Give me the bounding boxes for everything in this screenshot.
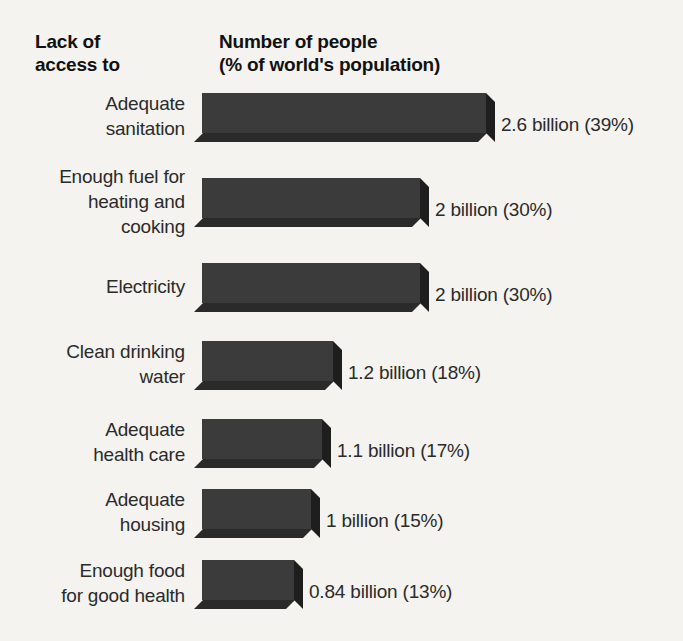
bar-front-face: [202, 93, 486, 133]
bar: [202, 341, 342, 390]
chart-row-header: Lack of access to: [35, 30, 120, 76]
category-label: Adequate health care: [93, 417, 185, 467]
category-label: Adequate housing: [105, 487, 185, 537]
bar-bottom-face: [194, 303, 421, 312]
chart-value-header: Number of people (% of world's populatio…: [219, 30, 440, 76]
bar-front-face: [202, 560, 294, 600]
bar: [202, 560, 303, 609]
bar-side-face: [420, 263, 429, 312]
bar-bottom-face: [194, 529, 312, 538]
bar-side-face: [311, 489, 320, 538]
category-label: Clean drinking water: [66, 339, 185, 389]
bar-bottom-face: [194, 600, 295, 609]
bar-front-face: [202, 489, 311, 529]
value-label: 1 billion (15%): [326, 511, 443, 530]
bar-bottom-face: [194, 133, 487, 142]
chart-container: Lack of access to Number of people (% of…: [0, 0, 683, 641]
value-label: 2 billion (30%): [435, 200, 552, 219]
bar-front-face: [202, 263, 420, 303]
bar-front-face: [202, 341, 333, 381]
category-label: Adequate sanitation: [105, 91, 185, 141]
bar-side-face: [486, 93, 495, 142]
bar-side-face: [333, 341, 342, 390]
bar-bottom-face: [194, 218, 421, 227]
category-label: Enough fuel for heating and cooking: [59, 164, 185, 239]
bar: [202, 263, 429, 312]
bar: [202, 178, 429, 227]
value-label: 0.84 billion (13%): [309, 582, 452, 601]
value-label: 1.2 billion (18%): [348, 363, 481, 382]
value-label: 2 billion (30%): [435, 285, 552, 304]
category-label: Electricity: [106, 274, 185, 299]
bar-side-face: [322, 419, 331, 468]
category-label: Enough food for good health: [61, 558, 185, 608]
value-label: 2.6 billion (39%): [501, 115, 634, 134]
bar-front-face: [202, 419, 322, 459]
bar-bottom-face: [194, 381, 334, 390]
bar-front-face: [202, 178, 420, 218]
bar-bottom-face: [194, 459, 323, 468]
bar-side-face: [420, 178, 429, 227]
bar: [202, 489, 320, 538]
bar: [202, 419, 331, 468]
bar: [202, 93, 495, 142]
bar-side-face: [294, 560, 303, 609]
value-label: 1.1 billion (17%): [337, 441, 470, 460]
